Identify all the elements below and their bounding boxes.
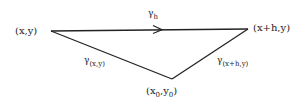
path-gamma-xy <box>51 31 172 79</box>
gamma-subscript: (x+h,y) <box>222 60 248 68</box>
base-x: (x <box>146 85 156 96</box>
path-label-gamma-h: γh <box>148 8 158 18</box>
path-label-gamma-xy: γ(x,y) <box>84 55 105 65</box>
base-y: ,y <box>160 85 169 96</box>
gamma-subscript: (x,y) <box>89 60 105 68</box>
path-label-gamma-xhy: γ(x+h,y) <box>217 55 248 65</box>
triangle-path-diagram: (x,y) (x+h,y) (x0,y0) γh γ(x,y) γ(x+h,y) <box>0 0 302 103</box>
base-close: ) <box>173 85 177 96</box>
vertex-label-start: (x,y) <box>15 26 37 36</box>
vertex-label-base: (x0,y0) <box>146 86 177 96</box>
base-x-subscript: 0 <box>156 91 160 99</box>
path-gamma-xhy <box>172 29 248 79</box>
vertex-label-end: (x+h,y) <box>253 23 290 33</box>
base-y-subscript: 0 <box>169 91 173 99</box>
path-gamma-h <box>51 29 248 31</box>
gamma-subscript: h <box>153 13 158 21</box>
